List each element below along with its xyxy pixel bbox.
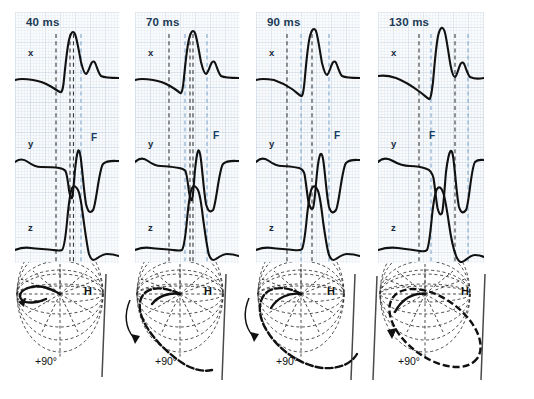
lead-label-z: z — [28, 222, 33, 233]
h-axis-line — [351, 274, 355, 380]
trace-lead-y — [15, 150, 119, 212]
f-marker-label: F — [429, 130, 435, 141]
lead-label-z: z — [269, 222, 274, 233]
angle-label: +90° — [155, 355, 177, 367]
lead-label-x: x — [28, 47, 33, 58]
angle-label: +90° — [35, 355, 57, 367]
h-axis-label: H — [327, 285, 335, 297]
vector-loop-upper-branch — [152, 293, 180, 304]
panel-40ms: 40 ms x y z F — [0, 0, 134, 399]
angle-label: +90° — [276, 355, 298, 367]
rotation-arrow-head — [131, 334, 140, 344]
f-marker-label: F — [91, 132, 97, 143]
vector-loop-upper-branch — [271, 294, 301, 308]
h-axis-label: H — [204, 285, 212, 297]
f-marker-label: F — [213, 130, 219, 141]
time-label: 70 ms — [146, 16, 180, 28]
vector-loop-globe-130ms — [363, 262, 534, 398]
h-axis-label: H — [84, 285, 92, 297]
trace-lead-x — [256, 29, 360, 96]
lead-label-x: x — [269, 47, 274, 58]
panel-70ms: 70 ms x y z F — [120, 0, 254, 399]
time-label: 40 ms — [26, 16, 60, 28]
h-axis-line — [481, 274, 485, 380]
rotation-arrow-arc — [126, 300, 134, 338]
angle-label: +90° — [398, 355, 420, 367]
trace-lead-x — [135, 31, 239, 93]
vector-loop-trajectory — [375, 273, 494, 383]
trace-lead-x — [15, 32, 119, 92]
rotation-arrow-arc — [245, 298, 253, 336]
panel-90ms: 90 ms x y z F — [241, 0, 375, 399]
time-label: 90 ms — [267, 16, 301, 28]
lead-label-x: x — [148, 47, 153, 58]
lead-label-z: z — [148, 222, 153, 233]
h-axis-line-left — [373, 276, 377, 380]
time-label: 130 ms — [389, 16, 429, 28]
figure-root: 40 ms x y z F — [0, 0, 534, 399]
lead-label-y: y — [28, 138, 33, 149]
globe-meridian-nw — [385, 279, 425, 294]
f-marker-label: F — [334, 130, 340, 141]
vector-loop-globe-40ms — [0, 262, 134, 398]
panel-130ms: 130 ms x y z F — [363, 0, 534, 399]
vector-loop-globe-70ms — [120, 262, 254, 398]
rotation-arrow-head — [387, 328, 397, 339]
lead-label-y: y — [148, 138, 153, 149]
lead-label-x: x — [391, 47, 396, 58]
rotation-arrow-head — [250, 332, 259, 342]
lead-label-z: z — [391, 222, 396, 233]
globe-meridian-nnw — [274, 271, 301, 294]
trace-lead-y — [135, 150, 239, 211]
vector-loop-globe-90ms — [241, 262, 381, 398]
lead-label-y: y — [269, 138, 274, 149]
globe-meridian-nnw — [153, 271, 180, 294]
h-axis-label: H — [461, 285, 469, 297]
lead-label-y: y — [391, 138, 396, 149]
